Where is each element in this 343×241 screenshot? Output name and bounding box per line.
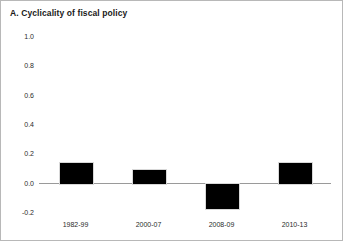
- page-title: A. Cyclicality of fiscal policy: [10, 8, 127, 18]
- y-axis-tick-label: 0.4: [24, 121, 34, 128]
- x-axis-tick-label: 2010-13: [282, 221, 308, 228]
- x-axis-tick-label: 1982-99: [63, 221, 89, 228]
- y-axis-tick-label: 0.6: [24, 91, 34, 98]
- y-axis-tick-label: 0.2: [24, 150, 34, 157]
- y-axis-tick-label: 0.8: [24, 62, 34, 69]
- x-axis-tick-label: 2008-09: [209, 221, 235, 228]
- y-axis-tick-label: 1.0: [24, 33, 34, 40]
- bar: [132, 169, 167, 184]
- y-axis-tick-label: -0.2: [22, 209, 34, 216]
- chart-figure: A. Cyclicality of fiscal policy 1.00.80.…: [0, 0, 343, 241]
- bar: [59, 162, 94, 185]
- bar: [205, 183, 240, 210]
- x-axis-tick-label: 2000-07: [136, 221, 162, 228]
- plot-area: 1.00.80.60.40.20.0-0.2 1982-992000-07200…: [39, 36, 331, 212]
- bar: [278, 162, 313, 185]
- y-axis-tick-label: 0.0: [24, 179, 34, 186]
